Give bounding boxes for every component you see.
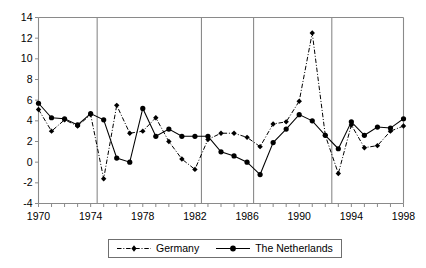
legend-item-germany: Germany — [117, 242, 199, 254]
data-point-marker — [336, 171, 341, 176]
y-tick-label: 8 — [27, 73, 33, 85]
data-point-marker — [388, 125, 393, 130]
y-tick-label: 6 — [27, 94, 33, 106]
x-tick-label: 1994 — [340, 210, 364, 222]
y-tick-label: 14 — [21, 11, 33, 23]
data-point-marker — [323, 133, 328, 138]
data-point-marker — [179, 134, 184, 139]
data-point-marker — [75, 122, 80, 127]
x-tick-label: 1982 — [183, 210, 207, 222]
data-point-marker — [336, 146, 341, 151]
data-point-marker — [297, 99, 302, 104]
legend-label-the-netherlands: The Netherlands — [255, 242, 333, 254]
x-tick-label: 1974 — [79, 210, 103, 222]
data-point-marker — [140, 128, 145, 133]
data-point-marker — [101, 176, 106, 181]
data-point-marker — [218, 131, 223, 136]
series-line — [39, 33, 404, 179]
x-tick-label: 1998 — [392, 210, 416, 222]
data-point-marker — [192, 134, 197, 139]
y-tick-label: 4 — [27, 114, 33, 126]
x-tick-label: 1970 — [27, 210, 51, 222]
vertical-separator-lines — [97, 18, 332, 204]
legend-swatch-netherlands-solid-circle — [216, 243, 250, 254]
legend-item-the-netherlands: The Netherlands — [216, 242, 333, 254]
legend-label-germany: Germany — [156, 242, 199, 254]
data-point-marker — [375, 124, 380, 129]
axis-lines — [39, 18, 404, 204]
data-point-marker — [258, 172, 263, 177]
data-point-marker — [297, 112, 302, 117]
legend-swatch-germany-dashdot-diamond — [117, 243, 151, 254]
x-tick-label: 1990 — [288, 210, 312, 222]
data-point-marker — [140, 106, 145, 111]
data-point-marker — [271, 140, 276, 145]
data-point-marker — [62, 116, 67, 121]
y-tick-label: 12 — [21, 32, 33, 44]
line-chart: -4-202468101214 197019741978198219861990… — [0, 0, 426, 236]
data-point-marker — [401, 116, 406, 121]
data-point-marker — [401, 123, 406, 128]
series-germany — [36, 30, 406, 181]
chart-legend: Germany The Netherlands — [108, 239, 342, 258]
x-axis-tick-labels: 19701974197819821986199019941998 — [27, 210, 416, 222]
data-point-marker — [349, 119, 354, 124]
data-point-marker — [283, 119, 288, 124]
series-the-netherlands — [36, 101, 406, 177]
data-point-marker — [153, 134, 158, 139]
y-tick-label: 2 — [27, 135, 33, 147]
data-point-marker — [362, 145, 367, 150]
data-point-marker — [205, 134, 210, 139]
data-point-marker — [244, 160, 249, 165]
data-point-marker — [127, 131, 132, 136]
data-point-marker — [310, 118, 315, 123]
y-tick-label: 0 — [27, 156, 33, 168]
data-point-marker — [270, 121, 275, 126]
data-point-marker — [231, 131, 236, 136]
data-point-marker — [231, 153, 236, 158]
data-point-marker — [284, 127, 289, 132]
y-tick-label: -2 — [23, 176, 32, 188]
data-point-marker — [166, 127, 171, 132]
data-point-marker — [114, 155, 119, 160]
y-tick-label: 10 — [21, 52, 33, 64]
x-tick-label: 1986 — [235, 210, 259, 222]
chart-root: -4-202468101214 197019741978198219861990… — [0, 0, 426, 268]
series-line — [39, 103, 404, 174]
y-axis-tick-labels: -4-202468101214 — [21, 11, 33, 209]
data-point-marker — [101, 117, 106, 122]
data-point-marker — [362, 133, 367, 138]
data-point-marker — [36, 101, 41, 106]
data-point-marker — [49, 115, 54, 120]
y-tick-label: -4 — [23, 197, 32, 209]
data-point-marker — [218, 149, 223, 154]
x-tick-label: 1978 — [131, 210, 155, 222]
data-point-marker — [127, 160, 132, 165]
data-point-marker — [114, 103, 119, 108]
data-point-marker — [88, 111, 93, 116]
data-point-marker — [310, 30, 315, 35]
data-point-marker — [36, 107, 41, 112]
